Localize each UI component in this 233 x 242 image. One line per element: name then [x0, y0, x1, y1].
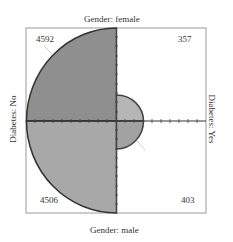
left-label: Diabetes: No	[8, 95, 18, 142]
count-male-no: 4506	[40, 195, 58, 205]
confidence-ring-mark	[137, 141, 145, 150]
right-label: Diabetes: Yes	[207, 95, 217, 144]
top-label: Gender: female	[84, 14, 140, 24]
quadrant-female-yes	[117, 95, 144, 121]
fourfold-plot	[0, 0, 233, 242]
confidence-ring-mark	[44, 46, 52, 54]
count-male-yes: 403	[181, 195, 195, 205]
bottom-label: Gender: male	[90, 225, 139, 235]
count-female-no: 4592	[36, 34, 54, 44]
quadrant-male-yes	[117, 121, 144, 149]
count-female-yes: 357	[178, 34, 192, 44]
